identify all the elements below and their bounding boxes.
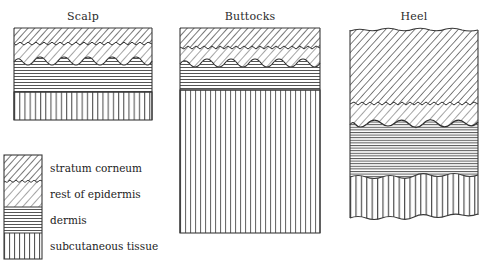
legend-item-subcutaneous-tissue: subcutaneous tissue: [50, 233, 180, 259]
panel-body-heel: [350, 28, 478, 228]
panel-body-buttocks: [180, 28, 320, 238]
legend: stratum corneum rest of epidermis dermis…: [4, 155, 180, 267]
legend-swatch-subcutaneous: [4, 233, 42, 259]
buttocks-cross-section: [180, 28, 320, 238]
legend-swatch-rest-of-epidermis: [4, 181, 42, 207]
legend-swatch: [4, 155, 42, 259]
panel-title-heel: Heel: [350, 10, 478, 23]
panel-body-scalp: [14, 28, 152, 124]
figure-canvas: Scalp: [0, 0, 482, 272]
layer-subcutaneous-tissue: [350, 171, 478, 221]
layer-stratum-corneum: [350, 26, 478, 108]
legend-swatch-stack: [4, 155, 42, 259]
legend-item-dermis: dermis: [50, 207, 180, 233]
layer-subcutaneous-tissue: [180, 90, 320, 233]
panel-title-scalp: Scalp: [14, 10, 152, 23]
legend-swatch-stratum-corneum: [4, 155, 42, 181]
panel-title-buttocks: Buttocks: [180, 10, 320, 23]
layer-subcutaneous-tissue: [14, 92, 152, 120]
scalp-cross-section: [14, 28, 152, 124]
legend-item-rest-of-epidermis: rest of epidermis: [50, 181, 180, 207]
legend-swatch-dermis: [4, 207, 42, 233]
heel-cross-section: [350, 28, 478, 228]
legend-item-stratum-corneum: stratum corneum: [50, 155, 180, 181]
legend-labels: stratum corneum rest of epidermis dermis…: [50, 155, 180, 259]
